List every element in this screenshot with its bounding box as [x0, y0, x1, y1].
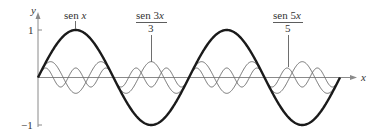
label-sin-3x-over-3: sen 3x 3 [136, 9, 167, 62]
label-sin-5x-denominator: 5 [285, 22, 291, 34]
axes [36, 12, 358, 127]
label-sin-5x-var: x [295, 9, 301, 21]
label-sin-x-prefix: sen [64, 9, 81, 21]
sine-harmonics-figure: y x 1 −1 sen x sen 3x 3 sen 5x 5 [0, 0, 381, 136]
label-sin-3x-denominator: 3 [148, 22, 154, 34]
label-sin-x-var: x [80, 9, 86, 21]
label-sin-x: sen x [64, 9, 86, 29]
label-sin-3x-numerator-prefix: sen 3 [136, 9, 159, 21]
svg-text:sen x: sen x [64, 9, 86, 21]
tick-label-y-1: 1 [28, 24, 34, 36]
label-sin-3x-var: x [158, 9, 164, 21]
label-sin-5x-over-5: sen 5x 5 [273, 9, 303, 67]
y-axis-arrow-icon [36, 12, 41, 19]
x-axis-label: x [360, 71, 366, 83]
svg-text:sen 5x: sen 5x [273, 9, 301, 21]
tick-label-y-neg1: −1 [21, 119, 33, 131]
label-sin-5x-numerator-prefix: sen 5 [273, 9, 296, 21]
x-axis-arrow-icon [350, 75, 357, 80]
y-axis-label: y [30, 4, 36, 16]
svg-text:sen 3x: sen 3x [136, 9, 164, 21]
